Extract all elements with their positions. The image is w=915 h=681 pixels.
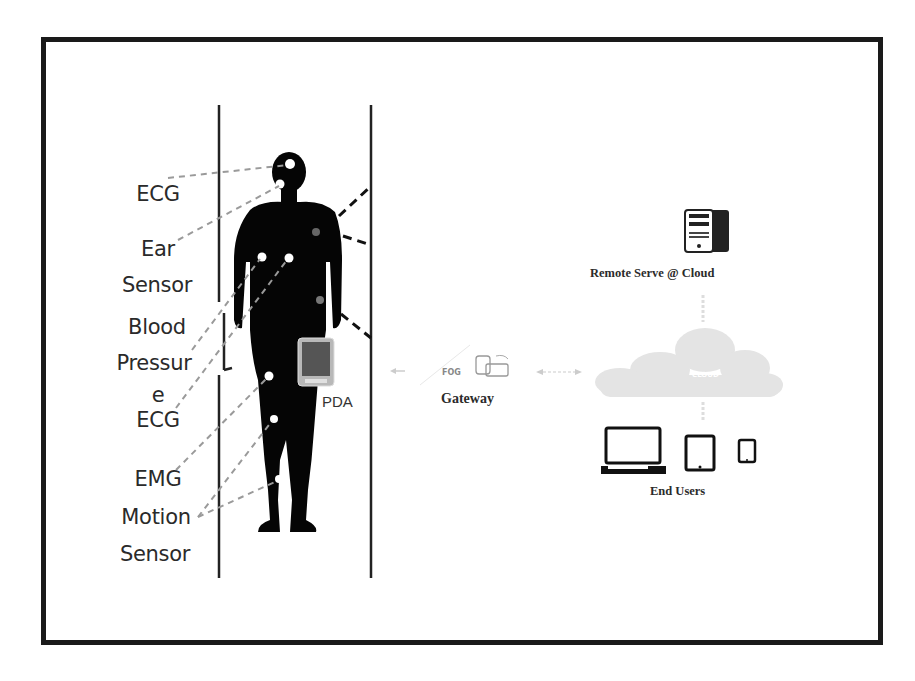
- label-ecg-head: ECG: [128, 182, 188, 206]
- label-ecg-body: ECG: [128, 408, 188, 432]
- label-motion-sensor-line1: Motion: [106, 505, 206, 529]
- gateway-label: Gateway: [441, 391, 494, 407]
- pda-label: PDA: [322, 393, 353, 410]
- label-blood-pressure-line3: e: [128, 383, 188, 407]
- end-users-label: End Users: [650, 484, 705, 499]
- label-blood-pressure-line1: Blood: [112, 315, 202, 339]
- pda-device-icon: [298, 338, 334, 386]
- label-ear-sensor-line2: Sensor: [112, 273, 202, 297]
- fog-gateway-icon: FOG: [390, 345, 582, 385]
- label-ear-sensor-line1: Ear: [128, 237, 188, 261]
- body-sensor-diagram: FOG CLOUD: [0, 0, 915, 681]
- tablet-icon: [686, 436, 714, 470]
- laptop-icon: [601, 428, 666, 474]
- svg-text:FOG: FOG: [442, 368, 461, 377]
- label-motion-sensor-line2: Sensor: [110, 542, 200, 566]
- cloud-icon: CLOUD: [595, 328, 783, 397]
- remote-server-icon: [685, 210, 729, 252]
- svg-text:CLOUD: CLOUD: [692, 371, 719, 379]
- remote-server-label: Remote Serve @ Cloud: [590, 266, 714, 281]
- label-emg: EMG: [128, 467, 188, 491]
- label-blood-pressure-line2: Pressur: [104, 351, 204, 375]
- shoulder-leader-lines: [339, 186, 371, 338]
- phone-icon: [739, 440, 755, 462]
